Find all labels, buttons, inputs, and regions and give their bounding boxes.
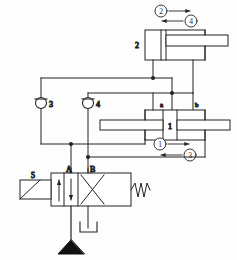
valve-5-body bbox=[20, 173, 131, 206]
cylinder-2-port-lines bbox=[153, 60, 193, 93]
valve-5-port-b-label: B bbox=[90, 165, 95, 174]
return-line-left bbox=[41, 140, 145, 144]
cylinder-2-label: 2 bbox=[135, 41, 139, 50]
cylinder-1-label: 1 bbox=[168, 122, 172, 131]
junction-dot-return-right bbox=[86, 155, 90, 159]
valve-5-port-a-label: A bbox=[66, 165, 72, 174]
motion-label-3-text: 3 bbox=[188, 151, 192, 160]
valve-5-port-stems bbox=[71, 168, 88, 173]
valve-5-label: 5 bbox=[31, 171, 35, 180]
cylinder-1-body bbox=[100, 110, 230, 140]
cylinder-2-body bbox=[145, 30, 228, 60]
motion-label-1-text: 1 bbox=[158, 140, 162, 149]
check-valve-3 bbox=[35, 78, 47, 144]
schematic-canvas: 2 bbox=[0, 0, 237, 260]
motion-label-4-text: 4 bbox=[189, 17, 193, 26]
cylinder-1-port-b-label: b bbox=[195, 101, 199, 109]
cylinder-1-port-a-label: a bbox=[160, 101, 164, 109]
check-valve-4-label: 4 bbox=[96, 100, 100, 109]
check-valve-3-label: 3 bbox=[49, 100, 53, 109]
motion-label-2-text: 2 bbox=[159, 7, 163, 16]
upper-rail-lines bbox=[41, 78, 172, 93]
junction-dot-upper-rail bbox=[151, 76, 155, 80]
valve-5-spring bbox=[131, 183, 150, 197]
pressure-source-symbol bbox=[58, 240, 84, 254]
hydraulic-schematic-diagram: 2 bbox=[0, 0, 237, 260]
check-valve-4 bbox=[82, 93, 94, 173]
